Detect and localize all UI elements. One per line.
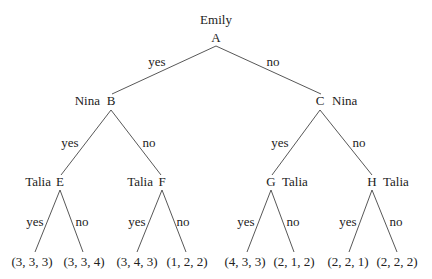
edge-label-g-no: no <box>287 215 300 229</box>
edge-label-b-yes: yes <box>61 136 78 150</box>
node-g: G <box>266 175 275 189</box>
player-label-talia-e: Talia <box>25 175 51 189</box>
player-label-talia-h: Talia <box>383 175 409 189</box>
player-label-nina-c: Nina <box>332 94 357 108</box>
payoff-leaf-4: (1, 2, 2) <box>166 255 207 269</box>
payoff-leaf-2: (3, 3, 4) <box>63 255 104 269</box>
edge-label-a-yes: yes <box>148 55 165 69</box>
payoff-leaf-8: (2, 2, 2) <box>376 255 417 269</box>
edge-label-h-no: no <box>390 215 403 229</box>
node-b: B <box>107 94 116 108</box>
payoff-leaf-6: (2, 1, 2) <box>273 255 314 269</box>
player-label-talia-f: Talia <box>127 175 153 189</box>
edge-label-e-yes: yes <box>26 215 43 229</box>
player-label-talia-g: Talia <box>282 175 308 189</box>
edge-label-b-no: no <box>143 136 156 150</box>
payoff-leaf-5: (4, 3, 3) <box>224 255 265 269</box>
node-e: E <box>56 175 64 189</box>
edge-label-f-no: no <box>177 215 190 229</box>
node-a: A <box>211 31 220 45</box>
edge-label-h-yes: yes <box>339 215 356 229</box>
payoff-leaf-3: (3, 4, 3) <box>116 255 157 269</box>
edge-label-c-no: no <box>353 136 366 150</box>
payoff-leaf-1: (3, 3, 3) <box>11 255 52 269</box>
edge-label-g-yes: yes <box>237 215 254 229</box>
node-f: F <box>158 175 165 189</box>
edge-label-f-yes: yes <box>128 215 145 229</box>
edge-label-e-no: no <box>76 215 89 229</box>
node-c: C <box>316 94 325 108</box>
node-h: H <box>367 175 376 189</box>
edge-label-c-yes: yes <box>271 136 288 150</box>
player-label-nina-b: Nina <box>75 94 100 108</box>
edge-label-a-no: no <box>267 55 280 69</box>
payoff-leaf-7: (2, 2, 1) <box>327 255 368 269</box>
player-label-emily: Emily <box>200 13 232 27</box>
